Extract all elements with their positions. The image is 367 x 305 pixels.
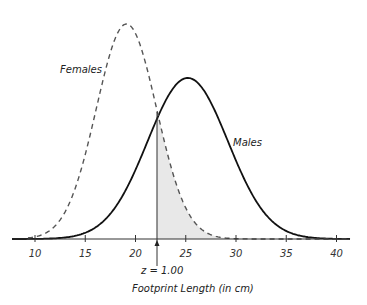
normal-distribution-chart <box>0 0 367 305</box>
males-label: Males <box>233 137 262 148</box>
z-marker-label: z = 1.00 <box>141 265 183 276</box>
x-axis-title: Footprint Length (in cm) <box>132 283 254 294</box>
females-curve <box>28 24 350 239</box>
x-tick-label: 30 <box>230 248 243 259</box>
x-tick-label: 15 <box>79 248 92 259</box>
shaded-area <box>157 110 350 239</box>
x-tick-label: 40 <box>330 248 343 259</box>
x-tick-label: 20 <box>129 248 142 259</box>
females-label: Females <box>60 64 102 75</box>
x-tick-label: 25 <box>179 248 192 259</box>
z-marker-arrow-icon <box>155 240 160 246</box>
x-tick-label: 35 <box>280 248 293 259</box>
x-tick-label: 10 <box>29 248 42 259</box>
